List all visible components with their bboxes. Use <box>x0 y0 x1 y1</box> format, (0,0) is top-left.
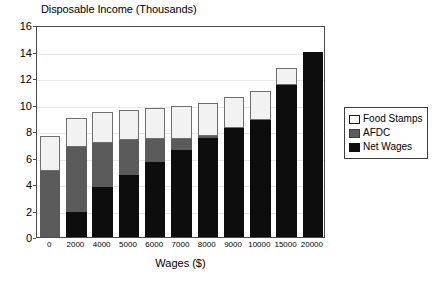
legend-label: Net Wages <box>363 141 412 153</box>
plot-area <box>36 26 325 238</box>
legend-label: AFDC <box>363 127 390 139</box>
y-tick-label: 6 <box>26 154 32 165</box>
chart-figure: Disposable Income (Thousands) 0246810121… <box>0 0 438 285</box>
bar-segment-afdc[interactable] <box>145 139 165 162</box>
y-tick-label: 4 <box>26 180 32 191</box>
x-tick-label: 15000 <box>274 240 296 250</box>
gray-square-icon <box>349 129 360 138</box>
white-square-icon <box>349 115 360 124</box>
bar-segment-food-stamps[interactable] <box>119 110 139 140</box>
bar-segment-food-stamps[interactable] <box>198 103 218 136</box>
bar-group[interactable] <box>276 25 296 237</box>
legend-item-net-wages[interactable]: Net Wages <box>349 140 422 154</box>
x-axis-title: Wages ($) <box>36 257 325 270</box>
legend-item-afdc[interactable]: AFDC <box>349 126 422 140</box>
bar-segment-food-stamps[interactable] <box>40 136 60 170</box>
x-tick-label: 9000 <box>224 240 242 250</box>
chart-legend: Food StampsAFDCNet Wages <box>344 107 428 159</box>
bars-layer <box>37 27 324 237</box>
bar-segment-net-wages[interactable] <box>171 150 191 237</box>
bar-segment-food-stamps[interactable] <box>250 91 270 120</box>
y-tick-mark <box>33 238 36 239</box>
bar-segment-net-wages[interactable] <box>276 85 296 237</box>
bar-segment-net-wages[interactable] <box>224 128 244 237</box>
bar-segment-afdc[interactable] <box>92 143 112 187</box>
bar-segment-food-stamps[interactable] <box>224 97 244 128</box>
y-tick-label: 0 <box>26 233 32 244</box>
bar-group[interactable] <box>66 25 86 237</box>
x-tick-label: 0 <box>47 240 51 250</box>
bar-group[interactable] <box>198 25 218 237</box>
bar-segment-net-wages[interactable] <box>92 187 112 237</box>
bar-group[interactable] <box>224 25 244 237</box>
bar-segment-food-stamps[interactable] <box>171 106 191 139</box>
bar-segment-afdc[interactable] <box>66 147 86 212</box>
x-tick-label: 8000 <box>198 240 216 250</box>
y-tick-label: 14 <box>20 48 32 59</box>
legend-item-food-stamps[interactable]: Food Stamps <box>349 112 422 126</box>
bar-group[interactable] <box>145 25 165 237</box>
bar-group[interactable] <box>250 25 270 237</box>
bar-segment-food-stamps[interactable] <box>145 108 165 139</box>
y-tick-label: 8 <box>26 127 32 138</box>
y-tick-label: 12 <box>20 74 32 85</box>
bar-group[interactable] <box>303 25 323 237</box>
bar-segment-afdc[interactable] <box>119 140 139 174</box>
bar-segment-net-wages[interactable] <box>198 138 218 237</box>
chart-title: Disposable Income (Thousands) <box>41 3 196 16</box>
y-tick-label: 10 <box>20 101 32 112</box>
bar-group[interactable] <box>119 25 139 237</box>
bar-segment-net-wages[interactable] <box>250 120 270 237</box>
x-tick-label: 7000 <box>172 240 190 250</box>
bar-group[interactable] <box>92 25 112 237</box>
bar-segment-net-wages[interactable] <box>66 212 86 237</box>
bar-segment-food-stamps[interactable] <box>276 68 296 85</box>
bar-segment-net-wages[interactable] <box>145 162 165 237</box>
legend-label: Food Stamps <box>363 113 422 125</box>
black-square-icon <box>349 143 360 152</box>
x-tick-label: 2000 <box>67 240 85 250</box>
x-tick-label: 10000 <box>248 240 270 250</box>
bar-segment-food-stamps[interactable] <box>66 118 86 147</box>
x-tick-label: 4000 <box>93 240 111 250</box>
bar-group[interactable] <box>171 25 191 237</box>
bar-group[interactable] <box>40 25 60 237</box>
y-tick-label: 2 <box>26 207 32 218</box>
bar-segment-food-stamps[interactable] <box>92 112 112 142</box>
x-tick-label: 20000 <box>301 240 323 250</box>
bar-segment-afdc[interactable] <box>171 139 191 150</box>
bar-segment-net-wages[interactable] <box>303 52 323 238</box>
x-tick-label: 6000 <box>145 240 163 250</box>
x-tick-label: 5000 <box>119 240 137 250</box>
bar-segment-afdc[interactable] <box>40 171 60 237</box>
x-axis: 0200040005000600070008000900010000150002… <box>36 240 325 256</box>
bar-segment-net-wages[interactable] <box>119 175 139 237</box>
y-tick-label: 16 <box>20 21 32 32</box>
y-axis: 0246810121416 <box>0 0 36 285</box>
